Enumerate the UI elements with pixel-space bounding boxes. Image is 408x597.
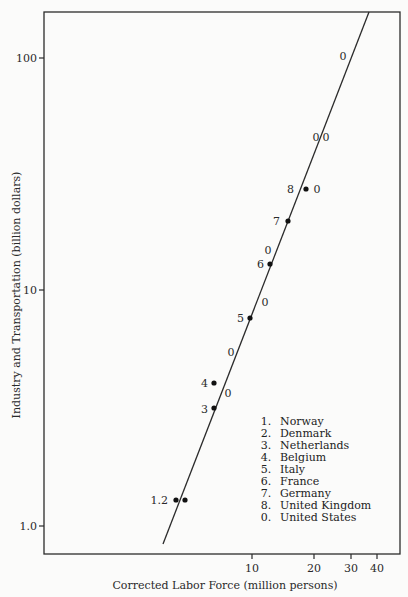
plot-frame — [44, 12, 400, 554]
x-axis: 10 20 30 40 Corrected Labor Force (milli… — [112, 554, 384, 592]
x-tick-label: 30 — [344, 562, 358, 575]
point-labels: 1.2 3 4 5 6 7 8 — [151, 183, 295, 507]
y-axis: 100 10 1.0 Industry and Transportation (… — [10, 52, 44, 533]
x-tick-label: 20 — [307, 562, 321, 575]
y-tick-label: 1.0 — [20, 520, 38, 533]
y-axis-label: Industry and Transportation (billion dol… — [10, 172, 23, 419]
y-tick-label: 100 — [16, 52, 37, 65]
data-point-norway — [173, 497, 178, 502]
data-point-italy — [247, 315, 252, 320]
us-marker: 0 — [313, 131, 320, 144]
us-marker: 0 — [314, 183, 321, 196]
data-point-belgium — [211, 380, 216, 385]
us-markers: 0 0 0 0 0 0 0 0 — [225, 50, 347, 400]
data-point-uk — [303, 186, 308, 191]
point-label: 8 — [287, 183, 294, 196]
chart: 100 10 1.0 Industry and Transportation (… — [0, 0, 408, 597]
point-label: 6 — [257, 258, 264, 271]
data-point-france — [267, 261, 272, 266]
us-marker: 0 — [262, 296, 269, 309]
legend-key: 0. — [261, 511, 272, 524]
data-point-denmark — [182, 497, 187, 502]
y-tick-label: 10 — [23, 284, 37, 297]
data-point-germany — [285, 218, 290, 223]
us-marker: 0 — [340, 50, 347, 63]
x-tick-label: 10 — [245, 562, 259, 575]
data-point-netherlands — [211, 405, 216, 410]
us-marker: 0 — [225, 387, 232, 400]
x-axis-label: Corrected Labor Force (million persons) — [112, 579, 337, 592]
point-label: 1.2 — [151, 494, 169, 507]
point-label: 3 — [201, 403, 208, 416]
point-label: 7 — [273, 215, 280, 228]
legend: 1. Norway 2. Denmark 3. Netherlands 4. B… — [261, 415, 372, 524]
x-tick-label: 40 — [370, 562, 384, 575]
point-label: 5 — [237, 312, 244, 325]
legend-label: United States — [280, 511, 357, 524]
us-marker: 0 — [265, 244, 272, 257]
us-marker: 0 — [228, 346, 235, 359]
point-label: 4 — [201, 377, 208, 390]
us-marker: 0 — [323, 131, 330, 144]
